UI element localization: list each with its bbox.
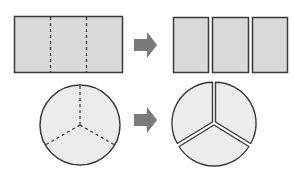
rectangle-piece-3 xyxy=(253,18,288,73)
right-arrow-icon xyxy=(134,32,157,58)
rectangle-piece-2 xyxy=(213,18,249,73)
fraction-diagram xyxy=(0,0,294,179)
right-arrow-icon xyxy=(134,107,157,133)
rectangle-pieces xyxy=(174,18,288,73)
rectangle-whole xyxy=(15,17,123,73)
circle-sectors xyxy=(172,82,256,166)
circle-whole xyxy=(40,85,120,165)
rectangle-piece-1 xyxy=(174,18,209,73)
